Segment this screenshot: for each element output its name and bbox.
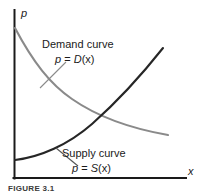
- supply-curve-equation: p = S(x): [71, 162, 111, 174]
- demand-curve-label: Demand curve: [42, 38, 114, 50]
- demand-eq-function: D: [74, 53, 82, 65]
- demand-eq-operator: =: [61, 53, 74, 65]
- figure-container: p x Demand curve p = D(x) Supply curve p…: [0, 0, 198, 191]
- supply-eq-argument: (x): [98, 162, 111, 174]
- y-axis-label: p: [20, 7, 27, 19]
- economics-supply-demand-chart: p x Demand curve p = D(x) Supply curve p…: [0, 0, 198, 191]
- demand-curve-equation: p = D(x): [54, 53, 94, 65]
- x-axis-label: x: [187, 165, 194, 177]
- supply-eq-operator: =: [78, 162, 91, 174]
- figure-caption: FIGURE 3.1: [8, 184, 55, 191]
- demand-eq-lhs: p: [54, 53, 61, 65]
- demand-eq-argument: (x): [82, 53, 95, 65]
- supply-curve-label: Supply curve: [62, 147, 126, 159]
- supply-eq-lhs: p: [71, 162, 78, 174]
